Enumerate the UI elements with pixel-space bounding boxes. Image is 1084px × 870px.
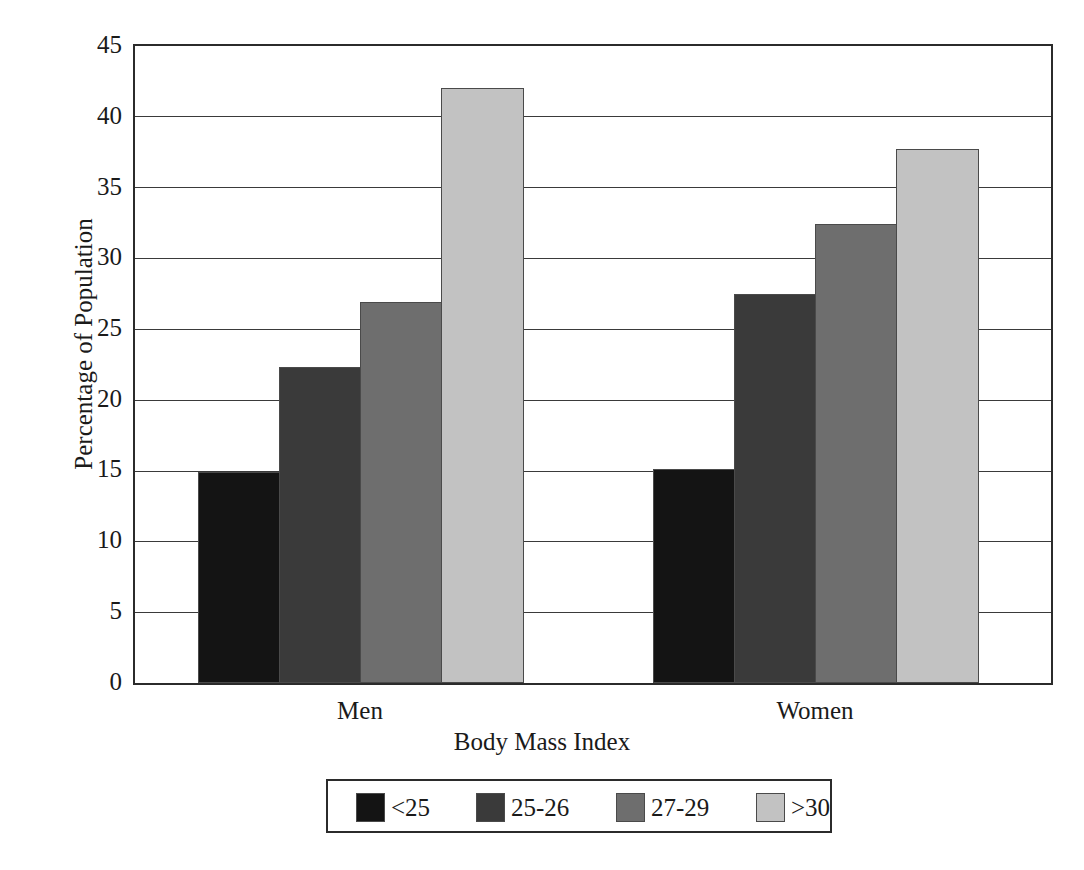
bar-women-lt25: [653, 469, 735, 683]
bar-men-27-29: [360, 302, 442, 683]
x-group-label-men: Men: [280, 697, 440, 725]
bar-women-27-29: [815, 224, 897, 683]
gridline-40: [135, 116, 1051, 117]
y-tick-label-40: 40: [60, 103, 122, 128]
x-axis-title: Body Mass Index: [0, 728, 1084, 756]
bar-women-gt30: [896, 149, 979, 683]
legend-label-lt25: <25: [391, 793, 430, 822]
chart-legend: <25 25-26 27-29 >30: [326, 779, 832, 833]
legend-item-27-29: 27-29: [616, 792, 709, 822]
x-group-label-women: Women: [735, 697, 895, 725]
legend-swatch-25-26: [476, 793, 505, 822]
bar-chart-figure: 45 40 35 30 25 20 15 10 5 0 Percentage o…: [0, 0, 1084, 870]
bar-men-gt30: [441, 88, 524, 683]
y-tick-label-5: 5: [60, 598, 122, 623]
legend-swatch-lt25: [356, 793, 385, 822]
legend-item-lt25: <25: [356, 792, 430, 822]
bar-men-25-26: [279, 367, 361, 683]
legend-item-25-26: 25-26: [476, 792, 569, 822]
bar-men-lt25: [198, 472, 280, 683]
legend-label-gt30: >30: [791, 793, 830, 822]
y-tick-label-0: 0: [60, 669, 122, 694]
legend-item-gt30: >30: [756, 792, 830, 822]
plot-area: [133, 44, 1053, 685]
y-tick-label-45: 45: [60, 32, 122, 57]
bar-women-25-26: [734, 294, 816, 683]
y-tick-label-10: 10: [60, 527, 122, 552]
legend-label-27-29: 27-29: [651, 793, 709, 822]
legend-swatch-gt30: [756, 793, 785, 822]
y-axis-title: Percentage of Population: [70, 194, 98, 494]
legend-swatch-27-29: [616, 793, 645, 822]
legend-label-25-26: 25-26: [511, 793, 569, 822]
